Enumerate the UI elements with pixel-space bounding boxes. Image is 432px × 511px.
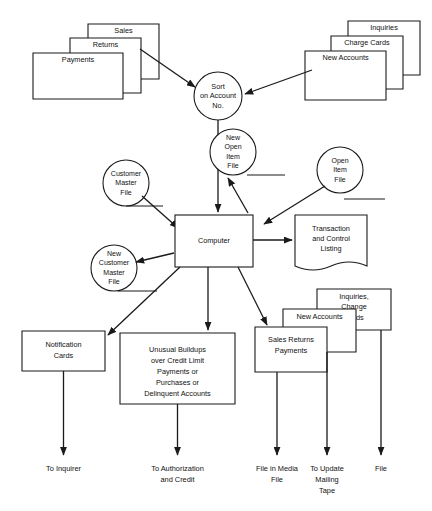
output-transaction-and-control-listing: Transaction and Control Listing bbox=[295, 215, 367, 270]
terminal-media-file-line-1: File in Media bbox=[256, 464, 299, 473]
terminal-to-inquirer-line-1: To Inquirer bbox=[46, 464, 81, 473]
input-card-payments-label: Payments bbox=[62, 55, 95, 64]
open-item-line-1: Open bbox=[331, 157, 348, 165]
file-customer-master: Customer Master File bbox=[103, 160, 163, 206]
output-card-new-accounts-label: New Accounts bbox=[296, 312, 343, 321]
terminal-authorization-line-2: and Credit bbox=[160, 475, 194, 484]
terminal-mailing-tape-line-1: To Update bbox=[310, 464, 344, 473]
new-open-item-line-1: New bbox=[226, 134, 241, 141]
transaction-listing-line-3: Listing bbox=[320, 244, 341, 253]
open-item-line-2: Item bbox=[333, 166, 347, 173]
customer-master-line-3: File bbox=[120, 189, 131, 196]
notification-cards-line-2: Cards bbox=[54, 351, 74, 360]
output-card-sales-returns-line-2: Payments bbox=[275, 346, 308, 355]
process-sort-on-account-no: Sort on Account No. bbox=[194, 72, 242, 120]
new-customer-master-line-3: Master bbox=[103, 269, 125, 276]
input-card-new-accounts-label: New Accounts bbox=[322, 53, 369, 62]
transaction-listing-line-2: and Control bbox=[312, 234, 350, 243]
arrow-customer-master-to-computer bbox=[142, 196, 178, 228]
unusual-buildups-line-3: Payments or bbox=[157, 367, 199, 376]
open-item-line-3: File bbox=[334, 176, 345, 183]
new-customer-master-line-4: File bbox=[108, 278, 119, 285]
arrow-computer-to-output-stack bbox=[238, 267, 267, 325]
unusual-buildups-line-2: over Credit Limit bbox=[151, 356, 204, 365]
system-flowchart: Sales Returns Payments Inquiries Charge … bbox=[0, 0, 432, 511]
file-new-open-item: New Open Item File bbox=[210, 129, 285, 175]
terminal-authorization-line-1: To Authorization bbox=[151, 464, 204, 473]
output-notification-cards: Notification Cards bbox=[22, 331, 105, 371]
output-unusual-buildups: Unusual Buildups over Credit Limit Payme… bbox=[120, 333, 235, 404]
terminal-to-update-mailing-tape: To Update Mailing Tape bbox=[310, 464, 344, 495]
unusual-buildups-line-1: Unusual Buildups bbox=[149, 345, 206, 354]
terminal-mailing-tape-line-2: Mailing bbox=[315, 475, 338, 484]
computer-label: Computer bbox=[198, 236, 231, 245]
input-card-charge-cards-label: Charge Cards bbox=[344, 38, 390, 47]
terminal-file: File bbox=[375, 464, 387, 473]
file-new-customer-master: New Customer Master File bbox=[91, 245, 157, 291]
input-card-inquiries-label: Inquiries bbox=[370, 23, 398, 32]
process-computer: Computer bbox=[175, 215, 253, 267]
terminal-mailing-tape-line-3: Tape bbox=[319, 486, 335, 495]
flowchart-page: Sales Returns Payments Inquiries Charge … bbox=[0, 0, 432, 511]
terminal-file-line-1: File bbox=[375, 464, 387, 473]
terminal-file-in-media-file: File in Media File bbox=[256, 464, 299, 484]
new-open-item-line-4: File bbox=[227, 162, 238, 169]
unusual-buildups-line-5: Delinquent Accounts bbox=[144, 389, 211, 398]
arrow-computer-to-new-open-item bbox=[228, 178, 248, 213]
notification-cards-line-1: Notification bbox=[45, 340, 81, 349]
arrow-computer-to-new-customer-master bbox=[136, 253, 174, 262]
transaction-listing-line-1: Transaction bbox=[312, 224, 350, 233]
sort-label-line-3: No. bbox=[212, 101, 223, 110]
sales-returns-payments-input-stack: Sales Returns Payments bbox=[33, 24, 159, 99]
new-open-item-line-2: Open bbox=[224, 143, 241, 151]
customer-master-line-1: Customer bbox=[111, 170, 142, 177]
input-card-sales-label: Sales bbox=[114, 26, 133, 35]
new-customer-master-line-1: New bbox=[107, 250, 122, 257]
sort-label-line-2: on Account bbox=[200, 91, 236, 100]
terminal-to-inquirer: To Inquirer bbox=[46, 464, 81, 473]
output-card-inquiries-line-1: Inquiries, bbox=[339, 292, 369, 301]
inquiries-charge-cards-new-accounts-input-stack: Inquiries Charge Cards New Accounts bbox=[305, 21, 420, 100]
new-open-item-line-3: Item bbox=[226, 153, 240, 160]
file-open-item: Open Item File bbox=[317, 147, 385, 199]
new-customer-master-line-2: Customer bbox=[99, 259, 130, 266]
output-card-sales-returns-line-1: Sales Returns bbox=[268, 335, 314, 344]
unusual-buildups-line-4: Purchases or bbox=[156, 378, 200, 387]
sort-label-line-1: Sort bbox=[211, 82, 224, 91]
output-card-stack: Inquiries, Change Cards New Accounts Sal… bbox=[255, 289, 391, 372]
terminal-to-authorization-and-credit: To Authorization and Credit bbox=[151, 464, 204, 484]
input-card-returns-label: Returns bbox=[93, 40, 119, 49]
customer-master-line-2: Master bbox=[115, 179, 137, 186]
arrow-right-inputs-to-sort bbox=[245, 70, 312, 94]
terminal-media-file-line-2: File bbox=[271, 475, 283, 484]
